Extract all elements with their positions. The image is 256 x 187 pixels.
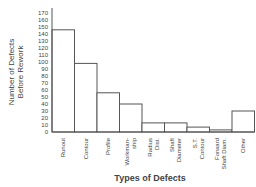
bar xyxy=(75,63,98,132)
x-category-label: ship xyxy=(131,137,137,149)
bar xyxy=(187,127,210,132)
y-tick-label: 160 xyxy=(38,17,49,23)
x-category-label: S.T. xyxy=(192,138,198,149)
y-tick-label: 10 xyxy=(41,122,48,128)
y-tick-label: 120 xyxy=(38,45,49,51)
y-tick-label: 130 xyxy=(38,38,49,44)
bars xyxy=(52,30,255,132)
y-tick-label: 170 xyxy=(38,10,49,16)
x-category-label: Radius xyxy=(147,138,153,157)
pareto-bar-chart: Number of DefectsBefore Rework 010203040… xyxy=(0,0,256,187)
y-axis-title-line: Before Rework xyxy=(16,45,25,99)
x-category-label: Shaft xyxy=(169,138,175,152)
x-category-label: Shaft Diam. xyxy=(221,138,227,170)
bar xyxy=(120,104,143,132)
y-tick-label: 70 xyxy=(41,80,48,86)
y-tick-label: 60 xyxy=(41,87,48,93)
bar xyxy=(232,111,255,132)
y-tick-label: 150 xyxy=(38,24,49,30)
x-category-label: Contour xyxy=(83,138,89,159)
y-tick-label: 80 xyxy=(41,73,48,79)
y-tick-label: 140 xyxy=(38,31,49,37)
x-category-label: Other xyxy=(240,138,246,153)
y-tick-label: 20 xyxy=(41,115,48,121)
bar xyxy=(97,93,120,132)
y-tick-label: 90 xyxy=(41,66,48,72)
x-category-label: Diameter xyxy=(176,138,182,162)
x-category-label: Workman- xyxy=(124,138,130,166)
y-tick-label: 50 xyxy=(41,94,48,100)
x-axis-category-labels: RunoutContourProfileWorkman-shipRadiusDi… xyxy=(60,137,246,169)
bar xyxy=(142,123,165,132)
x-category-label: Profile xyxy=(105,137,111,155)
x-category-label: Runout xyxy=(60,138,66,158)
x-category-label: Dist. xyxy=(154,138,160,150)
x-category-label: Contour xyxy=(199,138,205,159)
y-axis-label: Number of DefectsBefore Rework xyxy=(7,39,25,106)
bar xyxy=(165,123,188,132)
y-tick-label: 30 xyxy=(41,108,48,114)
x-axis-title: Types of Defects xyxy=(114,173,185,183)
y-axis-title-line: Number of Defects xyxy=(7,39,16,106)
y-tick-label: 0 xyxy=(45,129,49,135)
y-tick-label: 110 xyxy=(38,52,48,58)
x-category-label: Forward xyxy=(214,138,220,160)
bar xyxy=(52,30,75,132)
y-tick-label: 100 xyxy=(38,59,49,65)
y-axis-ticks: 0102030405060708090100110120130140150160… xyxy=(38,10,49,135)
y-tick-label: 40 xyxy=(41,101,48,107)
